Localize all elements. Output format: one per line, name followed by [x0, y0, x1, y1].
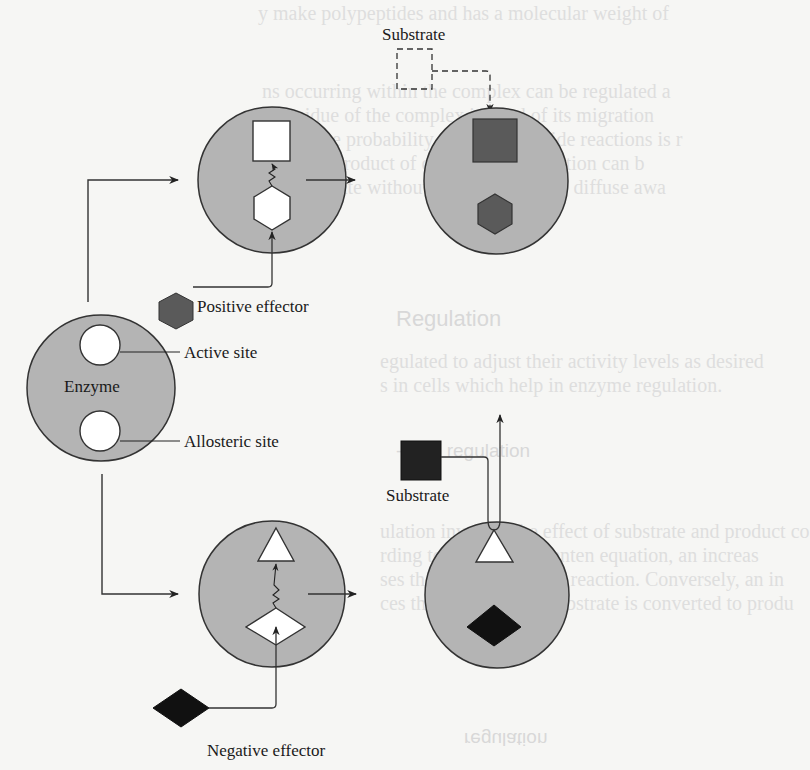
active-site	[80, 325, 120, 365]
active-site-square	[253, 121, 290, 161]
substrate-label-top: Substrate	[382, 25, 445, 44]
substrate-square-icon	[401, 441, 441, 480]
substrate-rejected-arrow	[441, 415, 500, 530]
enzyme-substrate-complex	[424, 108, 568, 254]
allosteric-site	[80, 411, 120, 451]
substrate-dashed-arrow	[432, 71, 490, 112]
positive-effector-hexagon-icon	[159, 293, 193, 329]
substrate-label-bottom: Substrate	[386, 486, 449, 505]
bound-substrate-square	[473, 119, 517, 162]
positive-effector-label: Positive effector	[197, 297, 309, 316]
negative-effector-label: Negative effector	[207, 741, 325, 760]
arrow-to-activated	[88, 180, 178, 302]
negative-effector-diamond-icon	[153, 689, 209, 727]
substrate-dashed-square-icon	[397, 49, 432, 89]
active-site-label: Active site	[184, 343, 257, 362]
arrow-to-inhibited	[102, 474, 178, 594]
enzyme-label: Enzyme	[64, 377, 120, 396]
enzyme: Enzyme Active site Allosteric site	[27, 315, 279, 461]
enzyme-blocked	[425, 522, 569, 668]
allosteric-site-label: Allosteric site	[184, 432, 279, 451]
